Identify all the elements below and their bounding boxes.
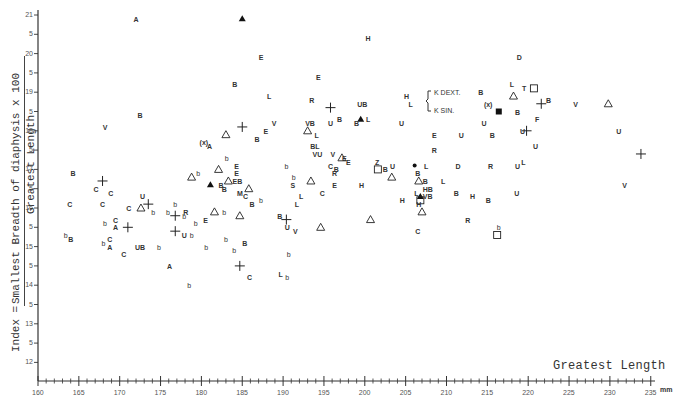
open-triangle-marker-icon — [222, 131, 230, 138]
letter-marker: U — [140, 193, 145, 200]
letter-marker: C — [243, 193, 248, 200]
y-tick-label: 5 — [29, 108, 33, 115]
letter-marker: U — [533, 143, 538, 150]
letter-marker: b — [101, 239, 105, 246]
open-triangle-marker-icon — [245, 185, 253, 192]
x-tick-label: 195 — [318, 389, 330, 396]
letter-marker: b — [196, 170, 200, 177]
letter-marker: U — [459, 131, 464, 138]
letter-marker: VB — [305, 120, 315, 127]
letter-marker: U — [520, 127, 525, 134]
letter-marker: C — [100, 201, 105, 208]
x-tick-label: 190 — [277, 389, 289, 396]
cross-marker-icon — [237, 122, 247, 132]
open-triangle-marker-icon — [224, 177, 232, 184]
letter-marker: b — [232, 247, 236, 254]
letter-marker: B — [277, 212, 282, 219]
y-tick-label: 5 — [29, 262, 33, 269]
letter-marker: b — [284, 162, 288, 169]
y-tick-label: 5 — [29, 223, 33, 230]
letter-marker: R — [309, 96, 314, 103]
letter-marker: V — [272, 120, 277, 127]
letter-marker: C — [67, 201, 72, 208]
x-tick-label: 235 — [645, 389, 657, 396]
open-triangle-marker-icon — [418, 208, 426, 215]
letter-marker: L — [299, 193, 303, 200]
y-tick-label: 5 — [29, 301, 33, 308]
y-tick-label: 17 — [25, 165, 33, 172]
letter-marker: V — [103, 123, 108, 130]
letter-marker: b — [190, 232, 194, 239]
letter-marker: D — [517, 54, 522, 61]
x-tick-label: 200 — [359, 389, 371, 396]
letter-marker: L — [295, 201, 299, 208]
letter-marker: B — [71, 170, 76, 177]
open-triangle-marker-icon — [215, 165, 223, 172]
letter-marker: b — [225, 154, 229, 161]
cross-marker-icon — [170, 211, 180, 221]
letter-marker: V — [622, 181, 627, 188]
letter-marker: U — [390, 162, 395, 169]
x-tick-label: 230 — [604, 389, 616, 396]
letter-marker: b — [204, 243, 208, 250]
letter-marker: B — [383, 166, 388, 173]
letter-marker: U — [514, 189, 519, 196]
y-axis-label-prefix: Index = — [10, 306, 22, 352]
open-square-marker-icon — [530, 85, 537, 92]
y-tick-label: 19 — [25, 88, 33, 95]
letter-marker: b — [64, 232, 68, 239]
letter-marker: T — [522, 85, 526, 92]
letter-marker: A — [207, 143, 212, 150]
y-tick-label: 5 — [29, 339, 33, 346]
letter-marker: b — [187, 282, 191, 289]
letter-marker: S — [291, 181, 296, 188]
letter-marker: H — [366, 35, 371, 42]
letter-marker: C — [320, 189, 325, 196]
letter-marker: L — [408, 100, 412, 107]
x-tick-label: 170 — [114, 389, 126, 396]
letter-marker: B — [68, 235, 73, 242]
letter-marker: HB — [423, 185, 433, 192]
open-triangle-marker-icon — [317, 223, 325, 230]
y-tick-label: 21 — [25, 11, 33, 18]
letter-marker: U — [285, 224, 290, 231]
legend-entry-k-dext: K DEXT. — [434, 89, 460, 96]
letter-marker: B — [337, 116, 342, 123]
open-triangle-marker-icon — [367, 216, 375, 223]
y-tick-label: 20 — [25, 50, 33, 57]
letter-marker: H — [404, 93, 409, 100]
y-tick-label: 14 — [25, 281, 33, 288]
letter-marker: H — [400, 197, 405, 204]
open-square-marker-icon — [494, 232, 501, 239]
letter-marker: C — [126, 205, 131, 212]
letter-marker: U — [482, 120, 487, 127]
letter-marker: Z — [375, 158, 379, 165]
x-tick-label: 215 — [481, 389, 493, 396]
letter-marker: B — [415, 170, 420, 177]
letter-marker: b — [287, 251, 291, 258]
letter-marker: R — [465, 216, 470, 223]
filled-dot-marker-icon — [413, 164, 417, 168]
cross-marker-icon — [536, 99, 546, 109]
open-triangle-marker-icon — [388, 173, 396, 180]
letter-marker: b — [259, 197, 263, 204]
letter-marker: b — [166, 208, 170, 215]
letter-marker: R — [432, 147, 437, 154]
letter-marker: EB — [232, 177, 242, 184]
letter-marker: b — [194, 220, 198, 227]
x-axis-label: Greatest Length — [553, 359, 666, 373]
open-triangle-marker-icon — [415, 177, 423, 184]
letter-marker: BL — [310, 143, 319, 150]
letter-marker: b — [285, 274, 289, 281]
letter-marker: B — [478, 89, 483, 96]
letter-marker: A — [113, 224, 118, 231]
filled-triangle-marker-icon — [239, 15, 246, 21]
x-tick-label: 180 — [195, 389, 207, 396]
x-tick-label: 210 — [441, 389, 453, 396]
letter-marker: E — [332, 181, 337, 188]
letter-marker: VU — [313, 150, 323, 157]
letter-marker: E — [346, 158, 351, 165]
letter-marker: L — [366, 116, 370, 123]
letter-marker: E — [259, 54, 264, 61]
letter-marker: U — [515, 162, 520, 169]
